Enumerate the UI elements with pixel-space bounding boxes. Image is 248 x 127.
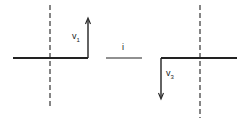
right-panel: v3 — [159, 5, 238, 118]
middle-label: i — [122, 42, 124, 52]
diagram-canvas: v1 i v3 — [0, 0, 248, 127]
left-panel: v1 — [13, 5, 91, 108]
middle-separator: i — [106, 42, 142, 58]
left-vector-label: v1 — [72, 31, 81, 43]
right-vector-label: v3 — [166, 68, 175, 80]
